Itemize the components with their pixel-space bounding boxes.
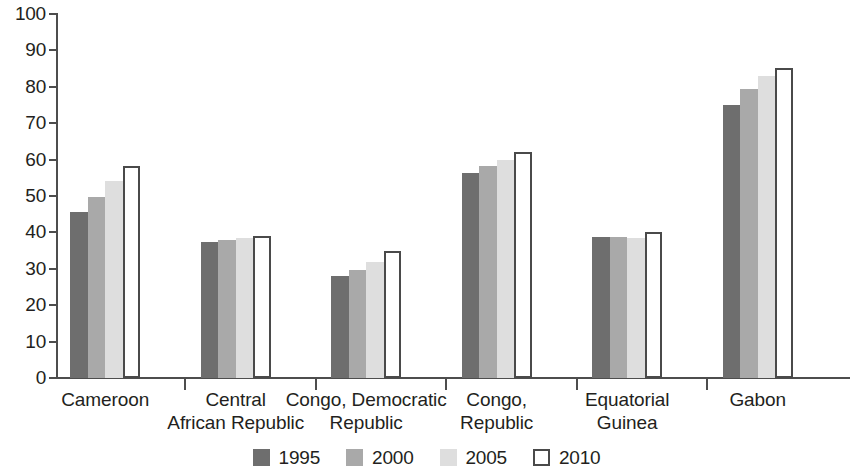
y-axis-tick	[49, 195, 57, 197]
y-axis-tick-label: 100	[2, 4, 46, 23]
bar	[645, 232, 663, 378]
bar	[349, 270, 367, 378]
bar	[123, 166, 141, 378]
legend-label: 2010	[559, 448, 600, 467]
bar	[105, 181, 123, 378]
bar	[88, 197, 106, 378]
y-axis-tick-label: 60	[2, 150, 46, 169]
legend-label: 2005	[466, 448, 507, 467]
bar	[592, 237, 610, 378]
bar	[627, 238, 645, 379]
bar	[331, 276, 349, 378]
y-axis-tick	[49, 231, 57, 233]
bar	[218, 240, 236, 378]
bar	[366, 262, 384, 378]
y-axis-tick-label: 40	[2, 222, 46, 241]
legend-item: 1995	[253, 448, 320, 467]
bar	[758, 76, 776, 378]
bar	[479, 166, 497, 378]
bar	[236, 238, 254, 378]
legend-label: 2000	[372, 448, 413, 467]
y-axis-tick	[49, 377, 57, 379]
y-axis-tick	[49, 13, 57, 15]
legend-label: 1995	[279, 448, 320, 467]
bar	[723, 105, 741, 378]
white-outline-swatch	[533, 449, 550, 466]
y-axis-tick	[49, 341, 57, 343]
y-axis-tick	[49, 49, 57, 51]
category-label-line: Guinea	[537, 411, 717, 434]
y-axis-tick	[49, 159, 57, 161]
medium-gray-swatch	[346, 449, 363, 466]
bar	[514, 152, 532, 378]
bar	[253, 236, 271, 378]
bar	[775, 68, 793, 378]
bar	[384, 251, 402, 378]
dark-gray-swatch	[253, 449, 270, 466]
bar	[70, 212, 88, 378]
y-axis-tick-label: 0	[2, 368, 46, 387]
bar	[201, 242, 219, 378]
category-label-line: Gabon	[668, 388, 848, 411]
y-axis-tick-label: 50	[2, 186, 46, 205]
y-axis-tick-label: 10	[2, 332, 46, 351]
category-axis-labels: CameroonCentralAfrican RepublicCongo, De…	[0, 388, 853, 436]
y-axis-tick-label: 80	[2, 77, 46, 96]
y-axis-tick	[49, 122, 57, 124]
light-gray-swatch	[440, 449, 457, 466]
bar	[462, 173, 480, 378]
y-axis-tick-label: 90	[2, 40, 46, 59]
legend-item: 2010	[533, 448, 600, 467]
y-axis-tick-label: 70	[2, 113, 46, 132]
bars-layer	[58, 14, 850, 378]
bar	[497, 160, 515, 378]
legend-item: 2005	[440, 448, 507, 467]
y-axis-tick-label: 20	[2, 295, 46, 314]
y-axis-tick	[49, 304, 57, 306]
bar-chart: 1009080706050403020100 CameroonCentralAf…	[0, 0, 853, 471]
chart-legend: 1995200020052010	[0, 445, 853, 469]
bar	[740, 89, 758, 378]
bar	[610, 237, 628, 378]
legend-item: 2000	[346, 448, 413, 467]
y-axis-tick-label: 30	[2, 259, 46, 278]
y-axis-tick	[49, 86, 57, 88]
y-axis-tick	[49, 268, 57, 270]
category-label: Gabon	[668, 388, 848, 411]
